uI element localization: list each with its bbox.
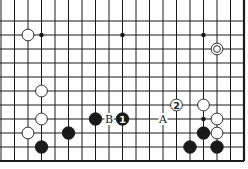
white-stone (211, 127, 223, 139)
white-stone (22, 29, 34, 41)
black-stone-icon (35, 141, 48, 154)
black-stone (184, 141, 197, 154)
white-stone (36, 85, 48, 97)
black-stone (62, 127, 75, 140)
black-stone (197, 127, 210, 140)
go-board: BA 12 (0, 0, 248, 169)
move-number: 1 (119, 114, 126, 125)
white-stone-marked (211, 43, 223, 55)
black-stone (211, 141, 224, 154)
black-stone-icon (211, 141, 224, 154)
white-stone-icon (211, 113, 223, 125)
black-stone-icon (184, 141, 197, 154)
move-number: 2 (173, 100, 180, 111)
white-stone-icon (211, 43, 223, 55)
point-label-a: A (158, 113, 168, 126)
white-stone-icon (198, 99, 210, 111)
white-stone (36, 113, 48, 125)
black-stone-1: 1 (116, 113, 129, 126)
white-stone-icon (22, 29, 34, 41)
white-stone-2: 2 (171, 99, 183, 111)
star-point (201, 117, 206, 122)
black-stone (89, 113, 102, 126)
white-stone-icon (36, 85, 48, 97)
white-stone-icon (22, 127, 34, 139)
white-stone-icon (211, 127, 223, 139)
white-stone (211, 113, 223, 125)
black-stone-icon (197, 127, 210, 140)
black-stone-icon (89, 113, 102, 126)
white-stone-icon (36, 113, 48, 125)
star-point (39, 33, 44, 38)
white-stone (22, 127, 34, 139)
point-label-b: B (105, 113, 113, 126)
star-point (201, 33, 206, 38)
white-stone (198, 99, 210, 111)
black-stone (35, 141, 48, 154)
black-stone-icon (62, 127, 75, 140)
star-point (120, 33, 125, 38)
